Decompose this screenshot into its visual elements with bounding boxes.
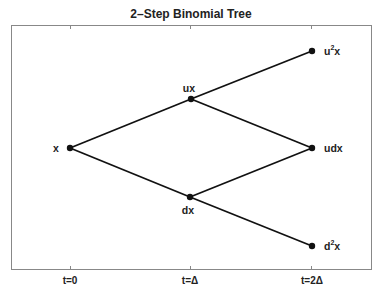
label-udx: udx bbox=[324, 142, 343, 154]
label-ux: ux bbox=[183, 82, 195, 94]
node-ux bbox=[188, 96, 194, 102]
tree-nodes bbox=[67, 48, 315, 249]
chart-title: 2–Step Binomial Tree bbox=[130, 7, 252, 21]
tick-label-t0: t=0 bbox=[63, 275, 78, 286]
node-x bbox=[67, 145, 73, 151]
edge-ux-u2x bbox=[191, 51, 312, 99]
label-dx: dx bbox=[182, 204, 194, 216]
edge-x-ux bbox=[70, 99, 191, 148]
axes-box bbox=[12, 26, 372, 270]
node-dx bbox=[187, 194, 193, 200]
label-u2x: u2x bbox=[324, 44, 340, 57]
edge-dx-udx bbox=[190, 148, 312, 197]
node-udx bbox=[309, 145, 315, 151]
binomial-tree-figure: 2–Step Binomial Tree x ux dx u2x udx d2x… bbox=[0, 0, 381, 296]
tree-edges bbox=[70, 51, 312, 246]
node-u2x bbox=[309, 48, 315, 54]
node-d2x bbox=[309, 243, 315, 249]
tick-label-t2: t=2Δ bbox=[301, 275, 323, 286]
x-ticks bbox=[71, 26, 312, 270]
edge-x-dx bbox=[70, 148, 190, 197]
edge-ux-udx bbox=[191, 99, 312, 148]
label-d2x: d2x bbox=[324, 239, 340, 252]
label-x: x bbox=[53, 142, 59, 154]
edge-dx-d2x bbox=[190, 197, 312, 246]
tick-label-t1: t=Δ bbox=[182, 275, 198, 286]
